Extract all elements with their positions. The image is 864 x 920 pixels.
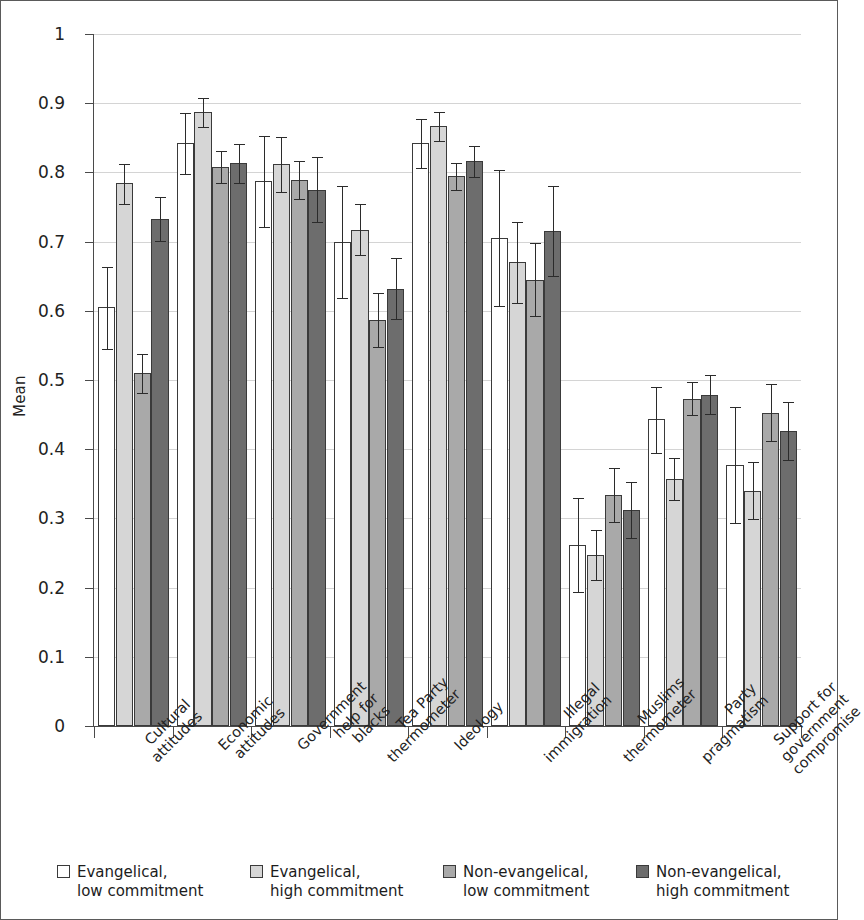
bar[interactable]: [683, 399, 700, 726]
bar-groups: [94, 34, 801, 726]
bar[interactable]: [255, 181, 272, 726]
bar[interactable]: [177, 143, 194, 726]
y-tick-mark: [85, 172, 94, 173]
bar[interactable]: [526, 280, 543, 726]
error-bar-cap: [391, 319, 402, 320]
bar[interactable]: [466, 161, 483, 726]
bar[interactable]: [98, 307, 115, 726]
legend-label-line2: high commitment: [270, 882, 403, 901]
error-bar-line: [735, 407, 736, 523]
error-bar-line: [692, 382, 693, 415]
legend-swatch-icon: [636, 865, 649, 878]
bar[interactable]: [491, 238, 508, 726]
y-tick-mark: [85, 242, 94, 243]
y-tick-label: 0.4: [19, 439, 65, 459]
bar[interactable]: [762, 413, 779, 726]
bar[interactable]: [648, 419, 665, 726]
error-bar-cap: [312, 157, 323, 158]
y-axis-tick-marks: [94, 34, 95, 726]
bar[interactable]: [544, 231, 561, 726]
bar[interactable]: [194, 112, 211, 726]
error-bar-cap: [651, 387, 662, 388]
legend-item[interactable]: Evangelical,high commitment: [250, 863, 403, 901]
error-bar-cap: [512, 222, 523, 223]
error-bar-cap: [748, 519, 759, 520]
bar[interactable]: [308, 190, 325, 726]
error-bar-line: [439, 112, 440, 141]
bar[interactable]: [701, 395, 718, 726]
error-bar-line: [596, 530, 597, 580]
bar[interactable]: [334, 242, 351, 726]
legend-label: Non-evangelical,high commitment: [656, 863, 789, 901]
error-bar-line: [360, 204, 361, 255]
error-bar-cap: [451, 190, 462, 191]
error-bar-cap: [416, 168, 427, 169]
bar[interactable]: [623, 510, 640, 726]
legend-item[interactable]: Non-evangelical,high commitment: [636, 863, 789, 901]
error-bar-cap: [294, 199, 305, 200]
error-bar-line: [656, 387, 657, 453]
y-tick-mark: [85, 518, 94, 519]
error-bar-cap: [137, 354, 148, 355]
bar[interactable]: [430, 126, 447, 726]
error-bar-line: [221, 151, 222, 184]
error-bar-line: [160, 197, 161, 241]
x-axis-category-labels: CulturalattitudesEconomicattitudesGovern…: [1, 726, 839, 856]
y-tick-mark: [85, 380, 94, 381]
bar[interactable]: [509, 262, 526, 726]
error-bar-cap: [591, 530, 602, 531]
bar[interactable]: [230, 163, 247, 726]
error-bar-cap: [373, 293, 384, 294]
error-bar-cap: [276, 192, 287, 193]
y-tick-mark: [85, 588, 94, 589]
bar[interactable]: [212, 167, 229, 726]
bar[interactable]: [605, 495, 622, 726]
error-bar-cap: [373, 347, 384, 348]
chart-legend: Evangelical,low commitmentEvangelical,hi…: [57, 863, 797, 909]
error-bar-line: [535, 243, 536, 316]
error-bar-cap: [651, 453, 662, 454]
error-bar-line: [710, 375, 711, 414]
error-bar-line: [281, 137, 282, 192]
bar[interactable]: [134, 373, 151, 726]
legend-swatch-icon: [443, 865, 456, 878]
bar[interactable]: [369, 320, 386, 726]
bar[interactable]: [291, 180, 308, 726]
bar[interactable]: [151, 219, 168, 726]
error-bar-cap: [451, 163, 462, 164]
legend-item[interactable]: Evangelical,low commitment: [57, 863, 203, 901]
error-bar-line: [107, 267, 108, 349]
legend-label-line2: high commitment: [656, 882, 789, 901]
error-bar-cap: [748, 462, 759, 463]
legend-label: Evangelical,high commitment: [270, 863, 403, 901]
error-bar-line: [753, 462, 754, 519]
bar[interactable]: [780, 431, 797, 726]
y-tick-mark: [85, 311, 94, 312]
error-bar-cap: [573, 498, 584, 499]
error-bar-cap: [102, 267, 113, 268]
legend-label-line2: low commitment: [77, 882, 203, 901]
error-bar-line: [203, 98, 204, 127]
error-bar-cap: [783, 402, 794, 403]
error-bar-cap: [669, 500, 680, 501]
bar[interactable]: [412, 143, 429, 726]
bar[interactable]: [387, 289, 404, 726]
bar[interactable]: [448, 176, 465, 726]
error-bar-cap: [609, 468, 620, 469]
legend-label-line2: low commitment: [463, 882, 589, 901]
bar[interactable]: [351, 230, 368, 726]
error-bar-cap: [198, 127, 209, 128]
bar[interactable]: [273, 164, 290, 726]
error-bar-cap: [180, 174, 191, 175]
error-bar-cap: [119, 164, 130, 165]
error-bar-line: [631, 482, 632, 537]
y-tick-label: 1: [19, 24, 65, 44]
legend-item[interactable]: Non-evangelical,low commitment: [443, 863, 589, 901]
y-tick-mark: [85, 103, 94, 104]
error-bar-line: [517, 222, 518, 304]
bar[interactable]: [116, 183, 133, 726]
error-bar-line: [142, 354, 143, 393]
error-bar-cap: [494, 306, 505, 307]
error-bar-cap: [416, 119, 427, 120]
